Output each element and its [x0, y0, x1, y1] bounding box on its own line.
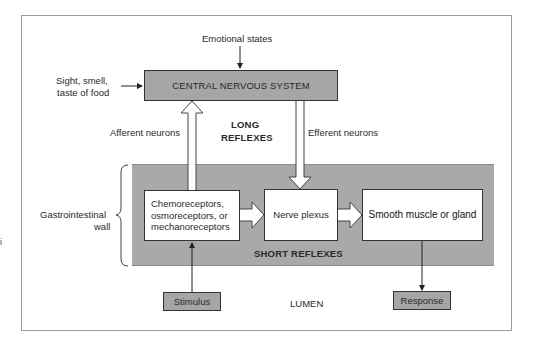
sight-smell-label-line1: Sight, smell,: [56, 75, 108, 87]
stimulus-box: Stimulus: [163, 292, 221, 311]
long-reflexes-label-line1: LONG: [231, 119, 259, 131]
plexus-to-effector-arrow: [338, 202, 362, 228]
short-reflexes-label: SHORT REFLEXES: [254, 248, 343, 260]
smooth-muscle-box: Smooth muscle or gland: [362, 189, 483, 241]
emotional-states-label: Emotional states: [202, 33, 272, 45]
nerve-plexus-box: Nerve plexus: [264, 189, 338, 241]
afferent-neurons-label: Afferent neurons: [110, 127, 180, 139]
gi-wall-label-line1: Gastrointestinal: [40, 209, 106, 221]
diagram-connectors: [0, 0, 545, 340]
gi-wall-label-line2: wall: [94, 221, 110, 233]
receptors-line3: mechanoreceptors: [151, 221, 230, 233]
afferent-arrow: [181, 101, 203, 190]
response-box: Response: [393, 291, 451, 310]
lumen-label: LUMEN: [290, 298, 323, 310]
efferent-arrow: [289, 100, 311, 189]
receptors-box: Chemoreceptors, osmoreceptors, or mechan…: [144, 190, 240, 241]
receptor-to-plexus-arrow: [240, 202, 264, 228]
gi-wall-brace: [116, 165, 128, 266]
receptors-line2: osmoreceptors, or: [151, 210, 228, 222]
sight-smell-label-line2: taste of food: [57, 87, 109, 99]
receptors-line1: Chemoreceptors,: [151, 198, 224, 210]
cns-box: CENTRAL NERVOUS SYSTEM: [144, 70, 338, 101]
long-reflexes-label-line2: REFLEXES: [221, 132, 273, 144]
efferent-neurons-label: Efferent neurons: [308, 127, 378, 139]
